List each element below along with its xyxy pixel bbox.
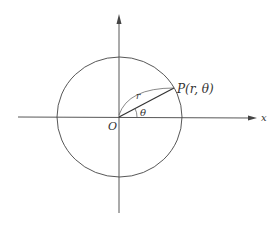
y-axis-arrow-icon	[117, 14, 122, 24]
radius-label: r	[136, 91, 141, 101]
x-axis-arrow-icon	[248, 116, 257, 121]
point-label: P(r, θ)	[176, 82, 214, 96]
x-axis	[18, 117, 252, 118]
angle-arc	[135, 109, 137, 118]
angle-label: θ	[140, 107, 146, 118]
radius-line	[119, 88, 174, 117]
x-axis-label: x	[261, 112, 267, 123]
origin-label: O	[108, 120, 117, 133]
polar-diagram: P(r, θ) r θ O x	[0, 0, 279, 225]
